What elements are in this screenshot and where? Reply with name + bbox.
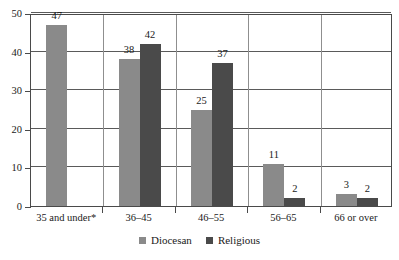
bar-religious: 2 [284,198,305,206]
bar-diocesan: 11 [263,164,284,206]
legend-swatch-icon [139,237,146,244]
bar-religious: 42 [140,44,161,206]
bar-group: 3842 [103,15,175,206]
chart-legend: DiocesanReligious [0,234,399,246]
x-category-label: 35 and under* [36,212,96,224]
bar-value-label: 11 [269,149,279,160]
x-category-label: 46–55 [198,212,224,224]
bar-group: 32 [321,15,393,206]
bar-value-label: 2 [365,183,370,194]
bar-value-label: 3 [344,179,349,190]
y-tick-label-20: 20 [12,125,23,135]
bar-value-label: 42 [145,29,156,40]
y-tick-label-0: 0 [17,202,22,212]
bar-group: 112 [248,15,320,206]
legend-item-diocesan[interactable]: Diocesan [139,234,192,246]
legend-label: Diocesan [151,234,192,246]
bar-diocesan: 47 [46,25,67,206]
x-tick-mark [320,207,321,213]
y-axis: 50403020100 [0,0,30,260]
legend-item-religious[interactable]: Religious [206,234,260,246]
bar-diocesan: 3 [336,194,357,206]
gridline-50 [31,12,391,13]
bar-value-label: 25 [196,95,207,106]
bar-value-label: 38 [124,44,135,55]
bar-group: 2537 [176,15,248,206]
bar-religious: 2 [357,198,378,206]
y-tick-label-40: 40 [12,48,23,58]
y-tick-label-30: 30 [12,86,23,96]
bar-religious: 37 [212,63,233,206]
y-tick-mark-0 [25,207,31,208]
x-category-label: 56–65 [270,212,296,224]
x-axis: 35 and under*36–4546–5556–6566 or over [30,210,392,226]
y-tick-label-50: 50 [12,9,23,19]
x-tick-mark [247,207,248,213]
bar-group: 47 [31,15,103,206]
bar-diocesan: 38 [119,59,140,206]
y-tick-label-10: 10 [12,163,23,173]
bar-value-label: 47 [51,10,62,21]
x-tick-mark [102,207,103,213]
x-category-label: 66 or over [334,212,377,224]
x-category-label: 36–45 [125,212,151,224]
plot-area: 473842253711232 [30,14,392,207]
bar-chart: 50403020100 473842253711232 35 and under… [0,0,399,260]
bar-diocesan: 25 [191,110,212,207]
legend-swatch-icon [206,237,213,244]
x-tick-mark [175,207,176,213]
legend-label: Religious [218,234,260,246]
bar-value-label: 2 [292,183,297,194]
bar-value-label: 37 [217,48,228,59]
